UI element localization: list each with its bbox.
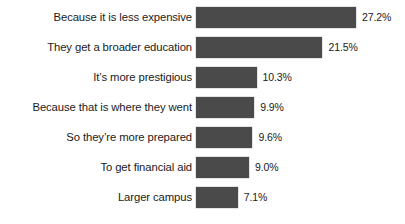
bar: [196, 127, 252, 148]
bar: [196, 7, 356, 28]
chart-row: It’s more prestigious10.3%: [0, 62, 405, 92]
bar: [196, 187, 238, 208]
category-label: So they’re more prepared: [0, 131, 192, 144]
bar: [196, 157, 249, 178]
chart-row: They get a broader education21.5%: [0, 32, 405, 62]
chart-row: Larger campus7.1%: [0, 182, 405, 212]
category-label: Larger campus: [0, 191, 192, 204]
category-label: It’s more prestigious: [0, 71, 192, 84]
value-label: 10.3%: [263, 71, 292, 83]
bar-zone: 9.9%: [192, 92, 405, 122]
value-label: 9.6%: [258, 131, 282, 143]
horizontal-bar-chart: Because it is less expensive27.2%They ge…: [0, 0, 405, 224]
chart-row: Because that is where they went9.9%: [0, 92, 405, 122]
bar-zone: 9.6%: [192, 122, 405, 152]
bar-zone: 21.5%: [192, 32, 405, 62]
bar: [196, 37, 322, 58]
chart-row: So they’re more prepared9.6%: [0, 122, 405, 152]
value-label: 9.0%: [255, 161, 279, 173]
bar-zone: 7.1%: [192, 182, 405, 212]
chart-row: Because it is less expensive27.2%: [0, 2, 405, 32]
value-label: 7.1%: [244, 191, 268, 203]
category-label: To get financial aid: [0, 161, 192, 174]
category-label: They get a broader education: [0, 41, 192, 54]
category-label: Because that is where they went: [0, 101, 192, 114]
value-label: 27.2%: [362, 11, 391, 23]
value-label: 9.9%: [260, 101, 284, 113]
bar: [196, 97, 254, 118]
bar-zone: 27.2%: [192, 2, 405, 32]
bar-zone: 10.3%: [192, 62, 405, 92]
bar: [196, 67, 257, 88]
bar-zone: 9.0%: [192, 152, 405, 182]
value-label: 21.5%: [328, 41, 357, 53]
chart-row: To get financial aid9.0%: [0, 152, 405, 182]
category-label: Because it is less expensive: [0, 11, 192, 24]
